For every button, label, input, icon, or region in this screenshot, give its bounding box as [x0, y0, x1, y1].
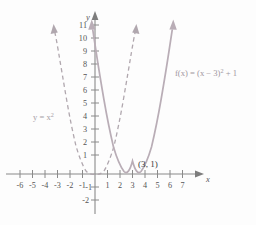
parent-curve-left-arrow	[51, 24, 58, 34]
svg-text:y = x2: y = x2	[33, 111, 54, 122]
y-tick-label: -1	[85, 183, 92, 192]
x-axis	[6, 171, 204, 178]
graph-figure: -6 -5 -4 -3 -2 -1 1 2 3 4 5 6 7 11 10 9 …	[0, 0, 256, 225]
transformed-function-text: f(x) = (x − 3)	[175, 68, 221, 78]
x-tick-label: 1	[105, 181, 109, 190]
parent-curve-right-arrow	[132, 24, 139, 34]
x-tick-label: 4	[143, 181, 147, 190]
y-axis-name-label: y	[85, 12, 90, 22]
x-axis-name-label: x	[205, 174, 210, 184]
y-axis-arrow	[92, 11, 99, 20]
svg-text:f(x) = (x − 3)2 + 1: f(x) = (x − 3)2 + 1	[175, 67, 237, 78]
x-tick-label: 5	[155, 181, 159, 190]
x-tick-label: -3	[54, 181, 61, 190]
y-tick-label: -2	[82, 196, 89, 205]
parent-function-text: y = x	[33, 112, 51, 122]
y-tick-label: 2	[83, 138, 87, 147]
y-tick-label: 7	[83, 73, 87, 82]
x-tick-label: 7	[180, 181, 184, 190]
x-axis-arrow	[195, 171, 204, 178]
y-tick-label: 5	[83, 99, 87, 108]
y-tick-label: 10	[79, 34, 87, 43]
y-tick-label: 8	[83, 60, 87, 69]
y-tick-label: 11	[79, 21, 87, 30]
y-tick-label: 1	[83, 151, 87, 160]
x-tick-labels: -6 -5 -4 -3 -2 -1 1 2 3 4 5 6 7	[17, 181, 185, 190]
transformed-curve-right-arrow	[169, 20, 176, 30]
x-tick-label: 6	[168, 181, 172, 190]
x-tick-label: -4	[42, 181, 49, 190]
y-tick-label: 6	[83, 86, 87, 95]
y-tick-labels: 11 10 9 8 7 6 5 4 3 2 1 -1 -2	[79, 21, 92, 205]
y-tick-label: 3	[83, 125, 87, 134]
x-tick-label: 2	[118, 181, 122, 190]
x-tick-label: 3	[130, 181, 134, 190]
y-tick-label: 4	[83, 112, 87, 121]
x-tick-label: -5	[29, 181, 36, 190]
transformed-function-tail: + 1	[224, 68, 237, 78]
x-tick-label: -2	[67, 181, 74, 190]
coordinate-plane: -6 -5 -4 -3 -2 -1 1 2 3 4 5 6 7 11 10 9 …	[0, 0, 256, 225]
vertex-point-label: (3, 1)	[138, 159, 158, 169]
transformed-function-label: f(x) = (x − 3)2 + 1	[175, 67, 237, 78]
parent-function-exponent: 2	[51, 111, 54, 118]
y-tick-label: 9	[83, 47, 87, 56]
x-tick-label: -6	[17, 181, 24, 190]
parent-function-label: y = x2	[33, 111, 54, 122]
transformed-parabola-curve	[88, 20, 177, 173]
